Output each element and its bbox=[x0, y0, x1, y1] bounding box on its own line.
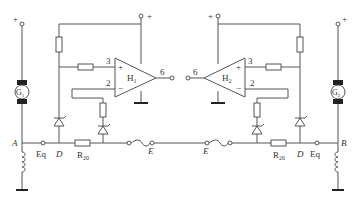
node-d-right-label: D bbox=[296, 149, 304, 159]
motor-g1-icon: G1 bbox=[15, 80, 29, 104]
node-d-left-label: D bbox=[55, 149, 63, 159]
node-e-left-label: E bbox=[147, 146, 154, 156]
svg-text:3: 3 bbox=[106, 56, 111, 66]
svg-text:−: − bbox=[236, 83, 241, 93]
circuit-diagram: + G1 A Eq D R20 bbox=[0, 0, 359, 204]
node-b-label: B bbox=[341, 138, 347, 148]
resistor-right-feedback-icon bbox=[254, 103, 260, 117]
g2-supply-terminal: + bbox=[336, 14, 347, 26]
eq-right-label: Eq bbox=[310, 149, 320, 159]
resistor-r20-right-icon: R20 bbox=[271, 140, 286, 161]
svg-text:+: + bbox=[236, 62, 241, 72]
svg-text:3: 3 bbox=[248, 56, 253, 66]
resistor-left-upper-icon bbox=[56, 37, 62, 52]
svg-text:2: 2 bbox=[250, 78, 255, 88]
opamp-h2-icon: + − H2 bbox=[204, 58, 245, 97]
svg-text:+: + bbox=[342, 14, 347, 24]
resistor-r20-left-icon: R20 bbox=[75, 140, 90, 161]
fuse-right-icon bbox=[209, 140, 228, 146]
eq-left-label: Eq bbox=[36, 149, 46, 159]
svg-text:R20: R20 bbox=[77, 150, 89, 161]
zener-diode-right-feedback-icon bbox=[252, 124, 264, 134]
svg-text:R20: R20 bbox=[273, 150, 285, 161]
left-circuit: + G1 A Eq D R20 bbox=[11, 11, 206, 190]
resistor-left-feedback-icon bbox=[100, 103, 106, 117]
svg-text:−: − bbox=[118, 83, 123, 93]
svg-text:2: 2 bbox=[106, 78, 111, 88]
resistor-right-pin3-icon bbox=[266, 64, 281, 70]
svg-text:6: 6 bbox=[193, 67, 198, 77]
node-a-label: A bbox=[11, 138, 18, 148]
right-circuit: E R20 D Eq B + G2 bbox=[186, 11, 347, 190]
motor-g2-icon: G2 bbox=[331, 80, 345, 104]
svg-text:+: + bbox=[13, 14, 18, 24]
inductor-right-icon bbox=[332, 143, 344, 190]
svg-text:6: 6 bbox=[160, 67, 165, 77]
svg-text:+: + bbox=[147, 11, 152, 21]
g1-supply-terminal: + bbox=[13, 14, 24, 26]
zener-diode-left-feedback-icon bbox=[98, 124, 110, 134]
zener-diode-left-d-icon bbox=[54, 116, 66, 126]
inductor-left-icon bbox=[16, 143, 28, 190]
resistor-right-upper-icon bbox=[297, 37, 303, 52]
node-e-right-label: E bbox=[202, 146, 209, 156]
opamp-h1-icon: + − H1 bbox=[115, 58, 156, 97]
resistor-left-pin3-icon bbox=[78, 64, 93, 70]
svg-text:+: + bbox=[118, 62, 123, 72]
zener-diode-right-d-icon bbox=[295, 116, 307, 126]
svg-text:+: + bbox=[208, 11, 213, 21]
